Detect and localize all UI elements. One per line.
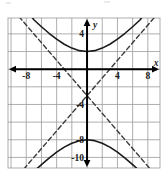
y-tick-label: -8 <box>76 135 84 145</box>
x-tick-label: 4 <box>115 71 120 81</box>
figure-background <box>0 0 168 176</box>
x-tick-label: -4 <box>53 71 61 81</box>
y-tick-label: -10 <box>71 153 84 163</box>
hyperbola-graph-figure: -8-4484-4-8-10xy <box>0 0 168 176</box>
y-tick-label: -4 <box>76 100 84 110</box>
y-tick-label: 4 <box>79 29 84 39</box>
x-tick-label: 8 <box>145 71 150 81</box>
x-tick-label: -8 <box>22 71 30 81</box>
y-axis-label: y <box>92 20 98 30</box>
x-axis-label: x <box>153 58 159 68</box>
